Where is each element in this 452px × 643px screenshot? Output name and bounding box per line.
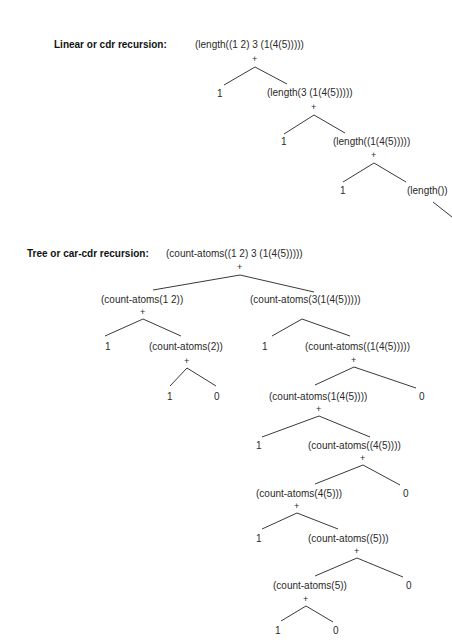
- tree-leaf: 1: [256, 533, 262, 544]
- tree-node-a-right: (count-atoms(2)): [149, 341, 223, 352]
- linear-node-2: (length(3 (1(4(5))))): [267, 87, 353, 98]
- plus-operator: +: [294, 502, 299, 511]
- tree-leaf: 0: [419, 391, 425, 402]
- linear-leaf-2: 1: [281, 136, 287, 147]
- plus-operator: +: [371, 151, 376, 160]
- plus-operator: +: [351, 356, 356, 365]
- plus-operator: +: [184, 357, 189, 366]
- tree-leaf: 1: [105, 341, 111, 352]
- tree-leaf: 0: [403, 488, 409, 499]
- linear-recursion-heading: Linear or cdr recursion:: [54, 39, 167, 50]
- tree-node-b-right: (count-atoms((1(4(5))))): [305, 341, 410, 352]
- linear-root-node: (length((1 2) 3 (1(4(5))))): [195, 39, 304, 50]
- plus-operator: +: [303, 595, 308, 604]
- plus-operator: +: [140, 308, 145, 317]
- plus-operator: +: [252, 55, 257, 64]
- tree-leaf: 0: [214, 391, 220, 402]
- linear-node-4: (length()): [407, 185, 448, 196]
- tree-leaf: 1: [262, 341, 268, 352]
- tree-leaf: 0: [333, 625, 339, 636]
- tree-leaf: 1: [167, 391, 173, 402]
- tree-node-e: (count-atoms(5)): [273, 580, 347, 591]
- tree-node-d: (count-atoms(4(5))): [256, 488, 342, 499]
- tree-recursion-heading: Tree or car-cdr recursion:: [27, 248, 149, 259]
- tree-node-a: (count-atoms(1 2)): [101, 294, 183, 305]
- tree-node-c: (count-atoms(1(4(5)))): [269, 391, 367, 402]
- tree-node-d-right: (count-atoms((5))): [308, 533, 389, 544]
- plus-operator: +: [316, 405, 321, 414]
- tree-leaf: 1: [256, 440, 262, 451]
- linear-leaf-3: 1: [340, 185, 346, 196]
- plus-operator: +: [360, 454, 365, 463]
- linear-leaf-1: 1: [217, 88, 223, 99]
- linear-node-3: (length((1(4(5))))): [333, 136, 410, 147]
- tree-leaf: 0: [406, 580, 412, 591]
- tree-leaf: 1: [275, 625, 281, 636]
- plus-operator: +: [354, 547, 359, 556]
- tree-edges: [0, 0, 452, 643]
- tree-root-node: (count-atoms((1 2) 3 (1(4(5))))): [166, 248, 303, 259]
- plus-operator: +: [237, 263, 242, 272]
- tree-node-b: (count-atoms(3(1(4(5))))): [250, 294, 361, 305]
- tree-node-c-right: (count-atoms((4(5)))): [308, 440, 401, 451]
- plus-operator: +: [311, 103, 316, 112]
